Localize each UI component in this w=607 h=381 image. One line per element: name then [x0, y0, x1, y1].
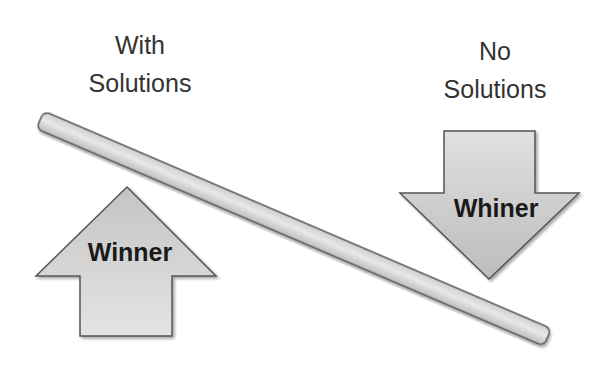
no-solutions-label: No Solutions — [420, 32, 570, 108]
with-solutions-label: With Solutions — [60, 26, 220, 102]
whiner-label: Whiner — [436, 194, 556, 223]
with-solutions-line2: Solutions — [60, 64, 220, 102]
with-solutions-line1: With — [60, 26, 220, 64]
no-solutions-line1: No — [420, 32, 570, 70]
no-solutions-line2: Solutions — [420, 70, 570, 108]
winner-label: Winner — [70, 238, 190, 267]
